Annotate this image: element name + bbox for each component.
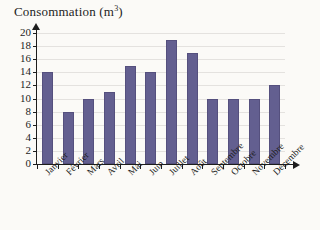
gridline	[37, 46, 285, 47]
y-axis-tick-label: 14	[0, 66, 31, 77]
bar	[145, 72, 156, 164]
y-axis-line	[36, 27, 37, 165]
gridline	[37, 72, 285, 73]
y-axis-tick-mark	[33, 85, 37, 86]
y-axis-tick-mark	[33, 151, 37, 152]
y-axis-tick-mark	[33, 99, 37, 100]
y-axis-tick-label: 6	[0, 119, 31, 130]
y-axis-tick-mark	[33, 72, 37, 73]
bar	[166, 40, 177, 164]
y-axis-tick-mark	[33, 138, 37, 139]
y-axis-tick-label: 16	[0, 53, 31, 64]
y-axis-tick-mark	[33, 112, 37, 113]
y-axis-tick-label: 4	[0, 132, 31, 143]
y-axis-tick-label: 12	[0, 79, 31, 90]
y-axis-tick-mark	[33, 59, 37, 60]
y-axis-tick-mark	[33, 46, 37, 47]
x-axis-tick-mark	[37, 165, 38, 169]
gridline	[37, 59, 285, 60]
y-axis-tick-label: 8	[0, 106, 31, 117]
y-axis-tick-label: 10	[0, 93, 31, 104]
bar	[104, 92, 115, 164]
y-axis-tick-label: 18	[0, 40, 31, 51]
consumption-bar-chart: Consommation (m3) 02468101214161820Janvi…	[0, 0, 320, 230]
y-axis-tick-mark	[33, 33, 37, 34]
bar	[125, 66, 136, 164]
x-axis-arrow-icon	[293, 161, 300, 169]
bar	[187, 53, 198, 164]
y-axis-tick-label: 20	[0, 27, 31, 38]
bar	[207, 99, 218, 165]
chart-title-main: Consommation (m	[14, 4, 114, 19]
y-axis-tick-label: 2	[0, 145, 31, 156]
gridline	[37, 85, 285, 86]
y-axis-tick-label: 0	[0, 158, 31, 169]
plot-area	[37, 33, 285, 164]
chart-title-tail: )	[118, 4, 123, 19]
gridline	[37, 33, 285, 34]
bar	[42, 72, 53, 164]
y-axis-arrow-icon	[32, 23, 40, 30]
chart-title: Consommation (m3)	[14, 4, 123, 20]
y-axis-tick-mark	[33, 125, 37, 126]
